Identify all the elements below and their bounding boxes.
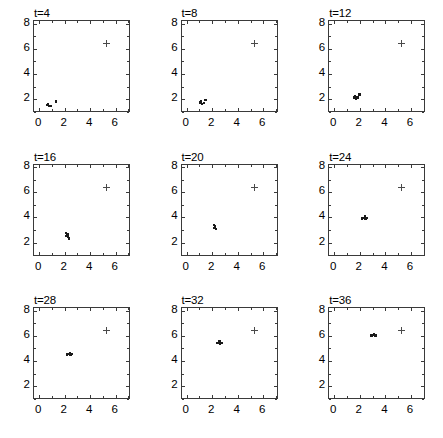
x-axis-label: 0	[177, 404, 195, 416]
x-axis-label: 0	[324, 117, 342, 129]
agent-point	[203, 102, 205, 104]
x-axis-label: 2	[55, 117, 73, 129]
y-axis-minor-tick	[182, 399, 184, 400]
y-axis-label: 2	[14, 92, 30, 104]
data-layer	[329, 165, 424, 255]
y-axis-label: 4	[14, 210, 30, 222]
y-axis-minor-tick	[422, 255, 424, 256]
target-marker-icon	[103, 40, 110, 47]
y-axis-label: 6	[14, 185, 30, 197]
x-axis-label: 6	[106, 261, 124, 273]
agent-point	[214, 226, 216, 228]
agent-point	[69, 352, 71, 354]
y-axis-label: 4	[309, 67, 325, 79]
panel-title: t=32	[182, 295, 204, 307]
plot-area	[33, 164, 130, 256]
y-axis-label: 4	[162, 210, 178, 222]
target-marker-icon	[103, 184, 110, 191]
x-axis-label: 0	[29, 261, 47, 273]
x-axis-label: 2	[350, 117, 368, 129]
y-axis-label: 4	[14, 354, 30, 366]
x-axis-label: 0	[29, 404, 47, 416]
y-axis-label: 6	[162, 329, 178, 341]
agent-point	[364, 215, 366, 217]
data-layer	[182, 21, 277, 111]
y-axis-label: 8	[309, 17, 325, 29]
y-axis-label: 2	[14, 379, 30, 391]
panel-title: t=28	[34, 295, 56, 307]
panel-title: t=20	[182, 152, 204, 164]
y-axis-label: 2	[309, 236, 325, 248]
target-marker-icon	[103, 327, 110, 334]
y-axis-label: 2	[309, 379, 325, 391]
y-axis-label: 2	[309, 92, 325, 104]
panel-t32: t=3202462468	[148, 287, 296, 433]
data-layer	[34, 21, 129, 111]
y-axis-label: 2	[162, 92, 178, 104]
agent-point	[356, 96, 358, 98]
y-axis-minor-tick	[275, 112, 277, 113]
y-axis-label: 8	[162, 160, 178, 172]
y-axis-label: 8	[14, 160, 30, 172]
x-axis-label: 4	[375, 117, 393, 129]
x-axis-label: 2	[202, 117, 220, 129]
panel-title: t=8	[182, 8, 198, 20]
data-layer	[182, 165, 277, 255]
y-axis-minor-tick	[422, 112, 424, 113]
y-axis-label: 6	[14, 329, 30, 341]
y-axis-label: 4	[162, 67, 178, 79]
x-axis-label: 0	[177, 261, 195, 273]
agent-point	[218, 340, 220, 342]
agent-point	[68, 237, 70, 239]
x-axis-label: 6	[401, 261, 419, 273]
x-axis-label: 4	[375, 404, 393, 416]
y-axis-label: 2	[14, 236, 30, 248]
data-layer	[34, 165, 129, 255]
agent-point	[373, 333, 375, 335]
y-axis-label: 6	[309, 329, 325, 341]
y-axis-minor-tick	[275, 255, 277, 256]
plot-area	[328, 20, 425, 112]
y-axis-label: 8	[309, 160, 325, 172]
y-axis-label: 8	[14, 304, 30, 316]
panel-t8: t=802462468	[148, 0, 296, 146]
x-axis-label: 6	[401, 117, 419, 129]
panel-t36: t=3602462468	[295, 287, 443, 433]
y-axis-label: 2	[162, 236, 178, 248]
y-axis-label: 6	[309, 185, 325, 197]
data-layer	[329, 308, 424, 398]
x-axis-label: 4	[80, 261, 98, 273]
x-axis-label: 2	[350, 404, 368, 416]
y-axis-minor-tick	[127, 255, 129, 256]
panel-t16: t=1602462468	[0, 144, 148, 290]
x-axis-label: 2	[202, 261, 220, 273]
x-axis-label: 6	[253, 117, 271, 129]
y-axis-label: 4	[162, 354, 178, 366]
data-layer	[182, 308, 277, 398]
y-axis-label: 6	[14, 42, 30, 54]
y-axis-minor-tick	[34, 399, 36, 400]
target-marker-icon	[251, 327, 258, 334]
target-marker-icon	[398, 184, 405, 191]
plot-area	[33, 20, 130, 112]
x-axis-label: 6	[106, 404, 124, 416]
target-marker-icon	[398, 40, 405, 47]
plot-area	[33, 307, 130, 399]
panel-t12: t=1202462468	[295, 0, 443, 146]
x-axis-label: 4	[228, 117, 246, 129]
panel-title: t=12	[329, 8, 351, 20]
x-axis-label: 6	[253, 404, 271, 416]
scatter-panel-grid: t=402462468t=802462468t=1202462468t=1602…	[0, 0, 443, 438]
agent-point	[55, 100, 57, 102]
x-axis-label: 6	[106, 117, 124, 129]
y-axis-label: 4	[309, 354, 325, 366]
plot-area	[181, 164, 278, 256]
panel-t4: t=402462468	[0, 0, 148, 146]
y-axis-label: 4	[14, 67, 30, 79]
y-axis-minor-tick	[329, 255, 331, 256]
x-axis-label: 6	[401, 404, 419, 416]
plot-area	[328, 164, 425, 256]
y-axis-minor-tick	[127, 112, 129, 113]
y-axis-label: 6	[162, 185, 178, 197]
plot-area	[328, 307, 425, 399]
